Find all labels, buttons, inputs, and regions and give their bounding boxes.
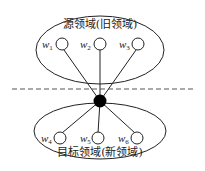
connection-lines	[62, 50, 136, 133]
node-label-w2: w2	[80, 38, 91, 52]
node-label-w3: w3	[119, 38, 130, 52]
node-label-w6: w6	[118, 132, 129, 146]
node-label-w5: w5	[80, 132, 91, 146]
target-domain: w4 w5 w6 目标领域(新领域)	[34, 103, 166, 159]
transfer-learning-diagram: 源领域(旧领域) w1 w2 w3 w4 w5 w6 目标领域(新领域)	[0, 0, 205, 171]
source-domain-label: 源领域(旧领域)	[63, 17, 138, 31]
node-label-w4: w4	[41, 132, 52, 146]
shared-hub-node	[94, 95, 107, 108]
target-domain-label: 目标领域(新领域)	[57, 145, 143, 159]
node-label-w1: w1	[42, 38, 53, 52]
